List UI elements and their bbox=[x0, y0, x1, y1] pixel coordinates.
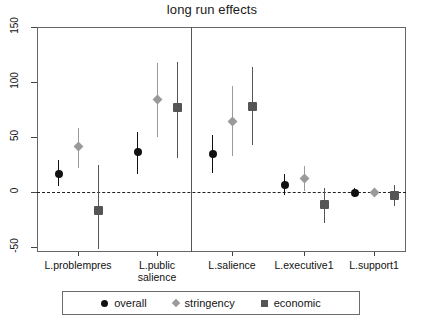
y-axis-tick-label: -50 bbox=[9, 229, 20, 263]
circle-marker-icon bbox=[281, 181, 289, 189]
long-run-effects-chart: long run effects -50050100150 L.problemp… bbox=[0, 0, 424, 324]
diamond-marker-icon bbox=[171, 299, 179, 307]
legend-items: overallstringencyeconomic bbox=[63, 292, 359, 314]
x-axis-label-line: salience bbox=[97, 271, 217, 283]
square-marker-icon bbox=[390, 191, 399, 200]
legend-item: stringency bbox=[173, 297, 235, 309]
y-axis-tick bbox=[31, 137, 37, 138]
square-marker-icon bbox=[261, 300, 268, 307]
legend-item-label: economic bbox=[274, 297, 321, 309]
circle-marker-icon bbox=[101, 300, 108, 307]
y-axis-tick-label: 50 bbox=[9, 119, 20, 153]
y-axis-tick-label: 150 bbox=[9, 9, 20, 43]
x-axis-tick bbox=[78, 252, 79, 256]
y-axis-tick bbox=[31, 82, 37, 83]
square-marker-icon bbox=[320, 200, 329, 209]
x-axis-tick bbox=[157, 252, 158, 256]
y-axis-tick bbox=[31, 247, 37, 248]
square-marker-icon bbox=[173, 103, 182, 112]
circle-marker-icon bbox=[209, 150, 217, 158]
square-marker-icon bbox=[248, 102, 257, 111]
legend-item: overall bbox=[101, 297, 146, 309]
x-axis-label-line: L.support1 bbox=[314, 259, 424, 271]
panel-divider-line bbox=[191, 27, 192, 252]
legend-item: economic bbox=[261, 297, 321, 309]
circle-marker-icon bbox=[351, 189, 359, 197]
circle-marker-icon bbox=[55, 170, 63, 178]
x-axis-tick bbox=[232, 252, 233, 256]
x-axis-category-label: L.support1 bbox=[314, 259, 424, 271]
circle-marker-icon bbox=[134, 148, 142, 156]
plot-area bbox=[37, 27, 406, 252]
legend: overallstringencyeconomic bbox=[62, 291, 360, 315]
chart-title: long run effects bbox=[0, 2, 424, 17]
y-axis-tick bbox=[31, 27, 37, 28]
x-axis-tick bbox=[374, 252, 375, 256]
legend-item-label: stringency bbox=[185, 297, 235, 309]
legend-item-label: overall bbox=[114, 297, 146, 309]
y-axis-tick-label: 0 bbox=[9, 174, 20, 208]
x-axis-tick bbox=[304, 252, 305, 256]
square-marker-icon bbox=[94, 206, 103, 215]
y-axis-tick-label: 100 bbox=[9, 64, 20, 98]
